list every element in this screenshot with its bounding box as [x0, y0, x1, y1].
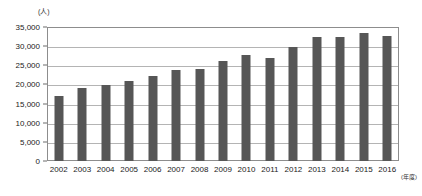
y-axis-tick-label: 20,000 [16, 80, 40, 89]
x-axis-tick-label: 2013 [308, 165, 326, 174]
x-axis-unit-label: (年度) [401, 172, 417, 181]
bars-layer [47, 27, 399, 161]
bar-slot [47, 27, 70, 161]
bar [265, 58, 274, 161]
x-axis-tick-label: 2002 [50, 165, 68, 174]
bar [383, 36, 392, 161]
bar [148, 76, 157, 161]
bar-slot [258, 27, 281, 161]
bar-slot [70, 27, 93, 161]
x-axis-tick-label: 2012 [284, 165, 302, 174]
x-axis-tick-label: 2014 [331, 165, 349, 174]
bar [54, 96, 63, 161]
bar [101, 85, 110, 161]
x-axis: 2002200320042005200620072008200920102011… [47, 163, 399, 179]
bar [359, 33, 368, 161]
bar-slot [117, 27, 140, 161]
bar [78, 88, 87, 162]
x-axis-tick-label: 2003 [73, 165, 91, 174]
y-axis: 05,00010,00015,00020,00025,00030,00035,0… [0, 27, 47, 161]
bar-slot [352, 27, 375, 161]
bar-slot [94, 27, 117, 161]
x-axis-tick-label: 2005 [120, 165, 138, 174]
bar-slot [282, 27, 305, 161]
x-axis-tick-label: 2007 [167, 165, 185, 174]
bar-chart: (人) 05,00010,00015,00020,00025,00030,000… [0, 0, 422, 196]
y-axis-tick-label: 5,000 [20, 137, 40, 146]
bar-slot [235, 27, 258, 161]
x-axis-tick-label: 2011 [261, 165, 278, 174]
x-axis-tick-label: 2004 [97, 165, 115, 174]
y-axis-tick-label: 35,000 [16, 23, 40, 32]
bar [312, 37, 321, 161]
y-axis-unit-label: (人) [38, 6, 50, 16]
bar-slot [211, 27, 234, 161]
bar [172, 70, 181, 161]
bar-slot [376, 27, 399, 161]
y-axis-tick-label: 15,000 [16, 99, 40, 108]
bar-slot [141, 27, 164, 161]
bar [195, 69, 204, 161]
x-axis-tick-label: 2015 [355, 165, 373, 174]
bar [218, 61, 227, 161]
bar-slot [329, 27, 352, 161]
x-axis-tick-label: 2008 [191, 165, 209, 174]
bar-slot [305, 27, 328, 161]
bar-slot [188, 27, 211, 161]
bar [289, 47, 298, 161]
x-axis-tick-label: 2006 [144, 165, 162, 174]
x-axis-tick-label: 2016 [378, 165, 396, 174]
y-axis-tick-label: 30,000 [16, 42, 40, 51]
bar-slot [164, 27, 187, 161]
x-axis-tick-label: 2010 [238, 165, 256, 174]
y-axis-tick-label: 10,000 [16, 118, 40, 127]
y-axis-tick-label: 25,000 [16, 61, 40, 70]
bar [336, 37, 345, 161]
bar [125, 81, 134, 161]
y-axis-tick-label: 0 [36, 157, 40, 166]
x-axis-tick-label: 2009 [214, 165, 232, 174]
bar [242, 55, 251, 161]
